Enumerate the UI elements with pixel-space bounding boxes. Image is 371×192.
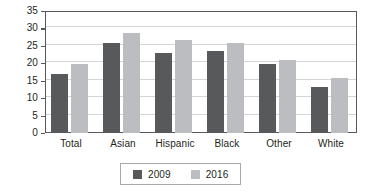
bar-white-2016	[331, 78, 348, 133]
y-axis-tick: 15	[0, 81, 45, 82]
bar-hispanic-2016	[175, 40, 192, 133]
x-axis-labels: TotalAsianHispanicBlackOtherWhite	[45, 136, 357, 152]
bar-total-2009	[51, 74, 68, 133]
legend-item-2016[interactable]: 2016	[191, 168, 229, 181]
x-axis-label-hispanic: Hispanic	[149, 136, 201, 151]
x-axis-label-asian: Asian	[97, 136, 149, 151]
y-tick-label: 5	[32, 109, 38, 123]
bar-group	[45, 11, 97, 133]
legend-swatch-icon	[133, 170, 142, 179]
bars-layer	[45, 11, 357, 133]
y-tick-label: 35	[27, 4, 38, 18]
y-axis-tick: 10	[0, 98, 45, 99]
y-tick-label: 20	[27, 56, 38, 70]
legend-label: 2009	[148, 168, 171, 181]
legend-swatch-icon	[191, 170, 200, 179]
bar-other-2009	[259, 64, 276, 133]
legend-item-2009[interactable]: 2009	[133, 168, 171, 181]
bar-hispanic-2009	[155, 53, 172, 133]
y-tick-label: 15	[27, 74, 38, 88]
y-axis-tick: 30	[0, 28, 45, 29]
bar-asian-2016	[123, 33, 140, 133]
y-axis-tick: 25	[0, 46, 45, 47]
bar-total-2016	[71, 64, 88, 133]
y-axis-tick: 20	[0, 63, 45, 64]
bar-group	[305, 11, 357, 133]
bar-asian-2009	[103, 43, 120, 133]
y-tick-label: 30	[27, 21, 38, 35]
y-tick-label: 0	[32, 126, 38, 140]
bar-white-2009	[311, 87, 328, 133]
x-axis-label-white: White	[305, 136, 357, 151]
bar-other-2016	[279, 60, 296, 133]
bar-black-2009	[207, 51, 224, 133]
bar-group	[97, 11, 149, 133]
y-axis-tick: 0	[0, 133, 45, 134]
y-axis-tick: 5	[0, 116, 45, 117]
x-axis-label-black: Black	[201, 136, 253, 151]
y-axis-ticks: 05101520253035	[0, 0, 45, 134]
bar-group	[149, 11, 201, 133]
y-tick-label: 10	[27, 91, 38, 105]
legend-label: 2016	[206, 168, 229, 181]
y-tick-label: 25	[27, 39, 38, 53]
x-axis-label-total: Total	[45, 136, 97, 151]
y-axis-tick: 35	[0, 11, 45, 12]
x-axis-label-other: Other	[253, 136, 305, 151]
y-tick-mark	[41, 133, 45, 134]
bar-chart: Percent 05101520253035 TotalAsianHispani…	[0, 0, 371, 192]
bar-group	[201, 11, 253, 133]
bar-black-2016	[227, 43, 244, 133]
bar-group	[253, 11, 305, 133]
chart-legend: 20092016	[120, 163, 241, 185]
